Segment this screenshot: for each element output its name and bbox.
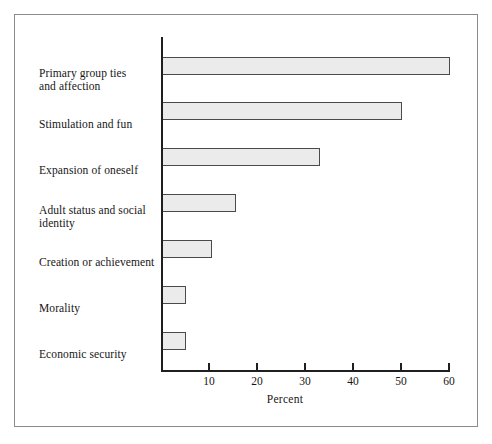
y-axis-line <box>161 37 163 372</box>
bar <box>161 286 186 304</box>
x-axis-tick <box>400 363 402 370</box>
x-axis-tick <box>208 363 210 370</box>
category-label-row: Economic security <box>39 340 165 370</box>
category-label-row: Stimulation and fun <box>39 110 165 140</box>
category-label-row: Primary group ties and affection <box>39 65 165 95</box>
bar <box>161 240 212 258</box>
category-label-row: Expansion of oneself <box>39 156 165 186</box>
category-label-row: Morality <box>39 294 165 324</box>
x-axis-tick-label: 40 <box>339 375 367 387</box>
category-label: Primary group ties and affection <box>39 67 165 94</box>
x-axis-tick <box>304 363 306 370</box>
bar <box>161 194 236 212</box>
x-axis-title: Percent <box>205 393 365 405</box>
category-label: Adult status and social identity <box>39 204 165 231</box>
category-label: Expansion of oneself <box>39 164 165 178</box>
x-axis-tick-label: 20 <box>243 375 271 387</box>
category-label: Stimulation and fun <box>39 118 165 132</box>
bar-chart-plot-area: Primary group ties and affection Stimula… <box>15 15 477 426</box>
x-axis-tick <box>352 363 354 370</box>
x-axis-tick-label: 10 <box>195 375 223 387</box>
bar <box>161 148 320 166</box>
x-axis-tick <box>448 363 450 370</box>
x-axis-tick-label: 60 <box>435 375 463 387</box>
category-label: Morality <box>39 302 165 316</box>
category-label: Economic security <box>39 348 165 362</box>
x-axis-line <box>161 370 450 372</box>
category-label: Creation or achievement <box>39 256 165 270</box>
bar <box>161 57 450 75</box>
x-axis-tick-label: 30 <box>291 375 319 387</box>
bar <box>161 102 402 120</box>
category-label-row: Creation or achievement <box>39 248 165 278</box>
x-axis-tick <box>256 363 258 370</box>
category-label-row: Adult status and social identity <box>39 202 165 232</box>
x-axis-tick-label: 50 <box>387 375 415 387</box>
bar <box>161 332 186 350</box>
figure-frame: Primary group ties and affection Stimula… <box>14 14 478 427</box>
